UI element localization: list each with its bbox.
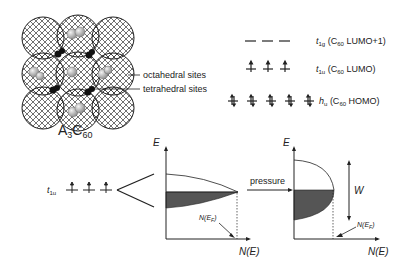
energy-levels bbox=[228, 41, 314, 106]
fullerene-crystal-image bbox=[22, 15, 140, 131]
tetrahedral-sites-label: tetrahedral sites bbox=[143, 84, 207, 94]
t1u-levels-small bbox=[66, 174, 154, 207]
dos-plot-left bbox=[164, 146, 251, 241]
level-label-hu: hu (C60 HOMO) bbox=[319, 96, 380, 107]
level-label-t1g: t1g (C60 LUMO+1) bbox=[316, 36, 386, 47]
level-label-t1u: t1u (C60 LUMO) bbox=[316, 64, 375, 75]
pressure-label: pressure bbox=[250, 176, 285, 186]
right-fermi-label: N(EF) bbox=[357, 221, 374, 230]
compound-label: A3C60 bbox=[58, 122, 93, 140]
left-fermi-label: N(EF) bbox=[199, 214, 216, 223]
left-x-axis-label: N(E) bbox=[239, 246, 260, 257]
octahedral-sites-label: octahedral sites bbox=[143, 70, 206, 80]
bandwidth-label: W bbox=[354, 185, 363, 196]
right-y-axis-label: E bbox=[283, 137, 290, 148]
left-y-axis-label: E bbox=[153, 137, 160, 148]
band-t1u-label: t1u bbox=[47, 185, 56, 196]
right-x-axis-label: N(E) bbox=[368, 246, 389, 257]
